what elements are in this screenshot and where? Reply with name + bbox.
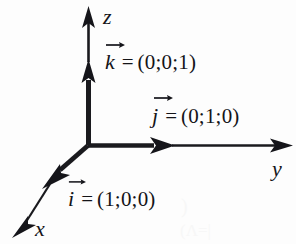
- axis-label-y: y: [272, 158, 282, 180]
- axis-label-z: z: [103, 6, 112, 28]
- i-symbol-letter: i: [68, 186, 74, 211]
- j-coordinates: (0;1;0): [181, 106, 240, 127]
- j-symbol: j: [152, 105, 159, 127]
- scan-ghost-mark-one: ): [181, 196, 188, 216]
- i-symbol: i: [68, 188, 75, 210]
- i-vector-shaft: [60, 146, 88, 171]
- k-coordinates: (0;0;1): [138, 52, 197, 73]
- k-symbol-letter: k: [105, 49, 115, 74]
- j-vector-label: j = (0;1;0): [152, 105, 240, 127]
- j-equals-sign: =: [159, 106, 181, 127]
- i-coordinates: (1;0;0): [97, 189, 156, 210]
- axis-label-x: x: [35, 218, 45, 240]
- k-equals-sign: =: [116, 52, 138, 73]
- coordinate-system-figure: z y x k = (0;0;1) j = (0;1;0): [0, 0, 296, 244]
- j-symbol-letter: j: [152, 103, 158, 128]
- k-symbol: k: [105, 51, 116, 73]
- scan-ghost-mark-two: (Λ=|: [180, 222, 211, 239]
- i-equals-sign: =: [75, 189, 97, 210]
- k-vector-label: k = (0;0;1): [105, 51, 196, 73]
- i-vector-label: i = (1;0;0): [68, 188, 156, 210]
- k-vector-arrowhead: [82, 59, 96, 83]
- x-axis-arrowhead: [12, 216, 36, 238]
